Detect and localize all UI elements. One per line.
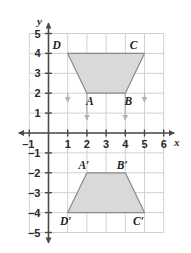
x-tick-label: 1: [65, 138, 71, 150]
vertex-label: B: [123, 95, 132, 107]
coordinate-plane-svg: 54321–1–2–3–4–5–1123456 DCABA′B′D′C′ xy: [0, 0, 191, 253]
x-tick-label: 4: [122, 138, 129, 150]
vertex-label: B′: [116, 159, 128, 171]
coordinate-plane-figure: 54321–1–2–3–4–5–1123456 DCABA′B′D′C′ xy: [0, 0, 191, 253]
vertex-label: C: [130, 39, 138, 51]
y-tick-label: 5: [34, 28, 40, 40]
x-tick-label: 3: [103, 138, 109, 150]
x-axis-name: x: [173, 136, 180, 148]
y-tick-label: –3: [28, 187, 40, 199]
x-tick-label: 5: [141, 138, 147, 150]
vertex-label: C′: [133, 215, 144, 227]
vertex-label: A: [85, 95, 94, 107]
y-tick-label: 3: [34, 67, 40, 79]
y-tick-label: –4: [28, 207, 41, 219]
y-tick-label: 2: [34, 87, 40, 99]
y-tick-label: 4: [34, 47, 41, 59]
preimage-trapezoid: [68, 53, 145, 93]
image-trapezoid: [68, 173, 145, 213]
y-tick-label: –2: [28, 167, 40, 179]
x-tick-label: –1: [22, 138, 34, 150]
y-tick-label: 1: [34, 107, 40, 119]
vertex-label: D′: [59, 215, 72, 227]
x-tick-label: 6: [161, 138, 167, 150]
x-tick-label: 2: [84, 138, 90, 150]
y-axis-name: y: [35, 15, 42, 27]
vertex-label: D: [52, 39, 62, 51]
vertex-label: A′: [77, 159, 89, 171]
y-tick-label: –5: [28, 227, 40, 239]
